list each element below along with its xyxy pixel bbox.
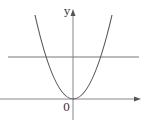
x-axis-arrow-icon	[134, 97, 141, 102]
y-axis-arrow-icon	[71, 9, 76, 16]
coordinate-diagram: y 0	[0, 0, 145, 128]
y-axis-label: y	[63, 5, 71, 18]
origin-label: 0	[63, 101, 70, 114]
